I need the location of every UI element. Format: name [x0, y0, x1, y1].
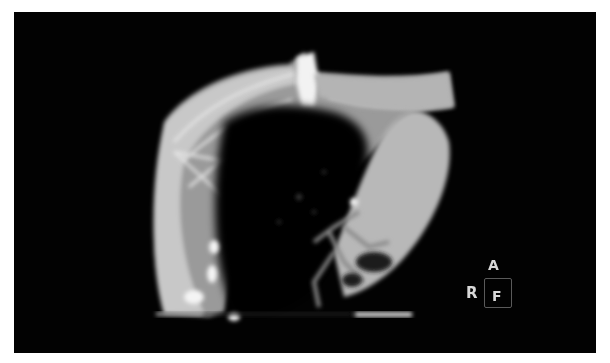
orientation-right-label: R	[466, 284, 478, 302]
orientation-anterior-label: A	[488, 257, 499, 273]
orientation-foot-label: F	[492, 288, 502, 304]
ct-image-panel: A R F	[14, 12, 596, 353]
